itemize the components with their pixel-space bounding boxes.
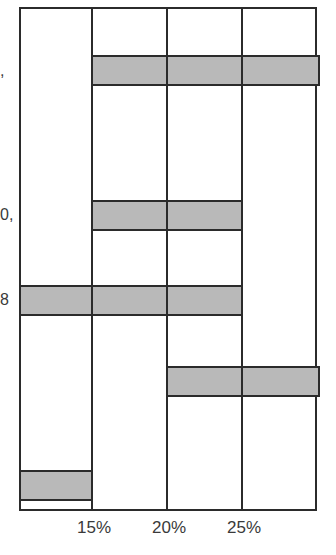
category-label-fragment-2: 0,: [0, 206, 13, 224]
x-tick-15: 15%: [77, 518, 111, 538]
range-bar-1: [91, 55, 320, 86]
range-bar-5: [19, 470, 93, 501]
category-label-fragment-1: ,: [0, 62, 4, 80]
range-bar-4: [166, 366, 320, 397]
x-tick-20: 20%: [152, 518, 186, 538]
x-tick-25: 25%: [227, 518, 261, 538]
range-bar-3: [19, 285, 243, 316]
category-label-fragment-3: 8: [0, 291, 9, 309]
range-bar-2: [91, 200, 243, 231]
